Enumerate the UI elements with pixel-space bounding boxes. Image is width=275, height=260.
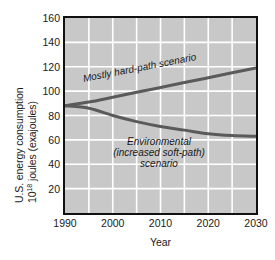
y-tick-label: 120 bbox=[30, 62, 60, 72]
x-axis-title: Year bbox=[63, 236, 258, 248]
y-tick-label: 100 bbox=[30, 86, 60, 96]
annotation-env-line1: Environmental bbox=[95, 136, 223, 147]
plot-canvas bbox=[65, 18, 256, 213]
chart-figure: U.S. energy consumption 1018 joules (exa… bbox=[0, 0, 275, 260]
y-tick-label: 60 bbox=[30, 135, 60, 145]
annotation-env-line2: (increased soft-path) bbox=[95, 147, 223, 158]
annotation-env-line3: scenario bbox=[95, 158, 223, 169]
x-tick-label: 2000 bbox=[101, 217, 124, 229]
y-tick-label: 140 bbox=[30, 37, 60, 47]
y-tick-label: 40 bbox=[30, 159, 60, 169]
x-tick-label: 1990 bbox=[53, 217, 76, 229]
y-axis-title-line1: U.S. energy consumption bbox=[13, 87, 25, 203]
plot-area: Mostly hard-path scenario Environmental … bbox=[63, 16, 258, 215]
y-tick-label: 80 bbox=[30, 111, 60, 121]
x-tick-label: 2030 bbox=[244, 217, 267, 229]
x-axis-tick-labels: 19902000201020202030 bbox=[63, 217, 258, 233]
gridlines bbox=[65, 18, 256, 213]
annotation-environmental-scenario: Environmental (increased soft-path) scen… bbox=[95, 136, 223, 169]
y-tick-label: 20 bbox=[30, 184, 60, 194]
x-tick-label: 2010 bbox=[149, 217, 172, 229]
y-tick-label: 160 bbox=[30, 13, 60, 23]
x-tick-label: 2020 bbox=[197, 217, 220, 229]
